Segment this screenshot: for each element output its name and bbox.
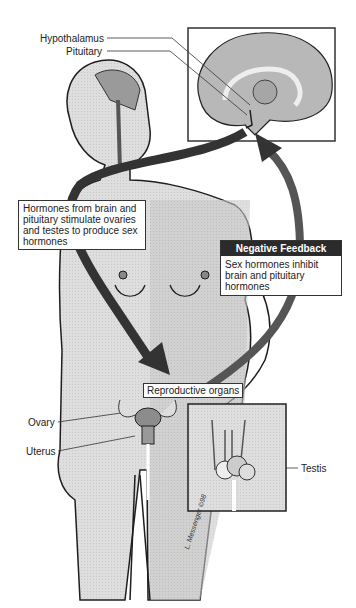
- stimulation-text: Hormones from brain and pituitary stimul…: [23, 203, 138, 247]
- anatomy-illustration: [0, 0, 356, 608]
- negative-feedback-callout: Negative Feedback Sex hormones inhibit b…: [220, 240, 342, 296]
- label-hypothalamus: Hypothalamus: [40, 33, 104, 44]
- label-uterus: Uterus: [26, 446, 55, 457]
- negative-feedback-title: Negative Feedback: [221, 241, 341, 256]
- negative-feedback-text: Sex hormones inhibit brain and pituitary…: [221, 256, 341, 295]
- label-pituitary: Pituitary: [66, 46, 102, 57]
- label-ovary: Ovary: [28, 417, 55, 428]
- label-testis: Testis: [301, 463, 327, 474]
- reproductive-organs-label: Reproductive organs: [143, 383, 243, 398]
- stimulation-callout: Hormones from brain and pituitary stimul…: [18, 200, 146, 250]
